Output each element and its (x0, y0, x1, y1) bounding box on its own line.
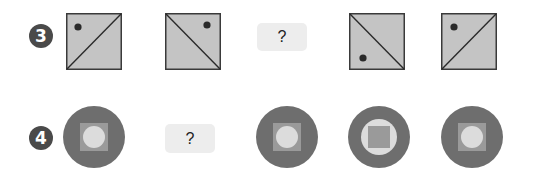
option-disc-4[interactable] (348, 106, 410, 168)
option-disc-5[interactable] (441, 106, 503, 168)
square-diagonal-icon (66, 13, 122, 70)
circle-in-square-icon (63, 106, 125, 168)
circle-in-square-icon (441, 106, 503, 168)
missing-item-box[interactable]: ? (257, 23, 307, 51)
square-diagonal-icon (349, 13, 405, 70)
square-diagonal-icon (165, 13, 221, 70)
question-number-badge: 4 (29, 126, 53, 150)
option-square-2[interactable] (165, 13, 221, 70)
circle-in-square-icon (256, 106, 318, 168)
missing-item-box[interactable]: ? (165, 124, 215, 153)
question-number-badge: 3 (29, 24, 53, 48)
option-square-5[interactable] (441, 13, 497, 70)
option-square-4[interactable] (349, 13, 405, 70)
option-disc-1[interactable] (63, 106, 125, 168)
square-diagonal-icon (441, 13, 497, 70)
option-square-1[interactable] (66, 13, 122, 70)
square-in-circle-icon (348, 106, 410, 168)
option-disc-3[interactable] (256, 106, 318, 168)
